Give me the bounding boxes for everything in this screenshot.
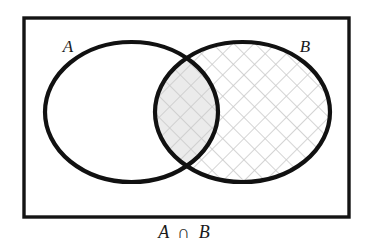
intersection-operator-icon: ∩ [177, 222, 190, 242]
figure-caption: A ∩ B [157, 222, 210, 242]
set-b-label: B [300, 37, 311, 56]
set-a-label: A [62, 37, 74, 56]
caption-set-b: B [199, 222, 210, 242]
venn-diagram-canvas: A B A ∩ B [0, 0, 369, 244]
caption-set-a: A [157, 222, 170, 242]
venn-diagram-figure: A B A ∩ B [0, 0, 369, 244]
